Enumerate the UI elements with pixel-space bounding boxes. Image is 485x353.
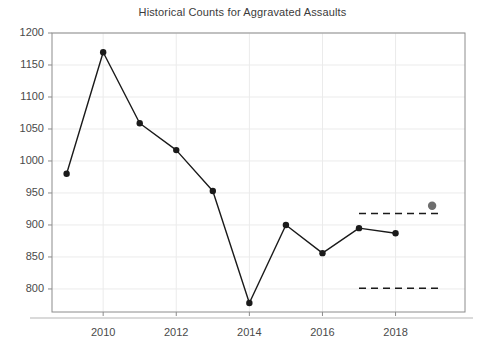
data-point — [100, 49, 106, 55]
data-point — [63, 171, 69, 177]
line-0 — [67, 52, 396, 303]
grid-lines — [52, 33, 465, 312]
x-axis-tick-label: 2016 — [297, 326, 347, 338]
y-axis-tick-label: 800 — [4, 282, 44, 294]
y-axis-tick-label: 850 — [4, 250, 44, 262]
data-point — [283, 222, 289, 228]
y-axis-tick-label: 1050 — [4, 122, 44, 134]
x-axis-tick-label: 2010 — [78, 326, 128, 338]
y-axis-tick-label: 1000 — [4, 154, 44, 166]
data-point — [246, 300, 252, 306]
y-axis-tick-label: 900 — [4, 218, 44, 230]
x-axis-tick-label: 2014 — [224, 326, 274, 338]
data-point — [356, 225, 362, 231]
data-point — [428, 202, 436, 210]
y-axis-tick-label: 1200 — [4, 26, 44, 38]
plot-border — [52, 33, 465, 312]
y-axis-tick-label: 950 — [4, 186, 44, 198]
y-axis-tick-label: 1100 — [4, 90, 44, 102]
x-axis-tick-label: 2018 — [371, 326, 421, 338]
data-point — [319, 250, 325, 256]
chart-plot-area — [0, 0, 485, 353]
series-line-path — [67, 52, 396, 303]
chart-container: Historical Counts for Aggravated Assault… — [0, 0, 485, 353]
plot-frame — [52, 33, 465, 312]
x-axis-tick-label: 2012 — [151, 326, 201, 338]
data-point — [173, 147, 179, 153]
y-axis-tick-label: 1150 — [4, 58, 44, 70]
series-data-points — [63, 49, 436, 306]
data-point — [137, 120, 143, 126]
data-point — [210, 188, 216, 194]
data-point — [392, 230, 398, 236]
